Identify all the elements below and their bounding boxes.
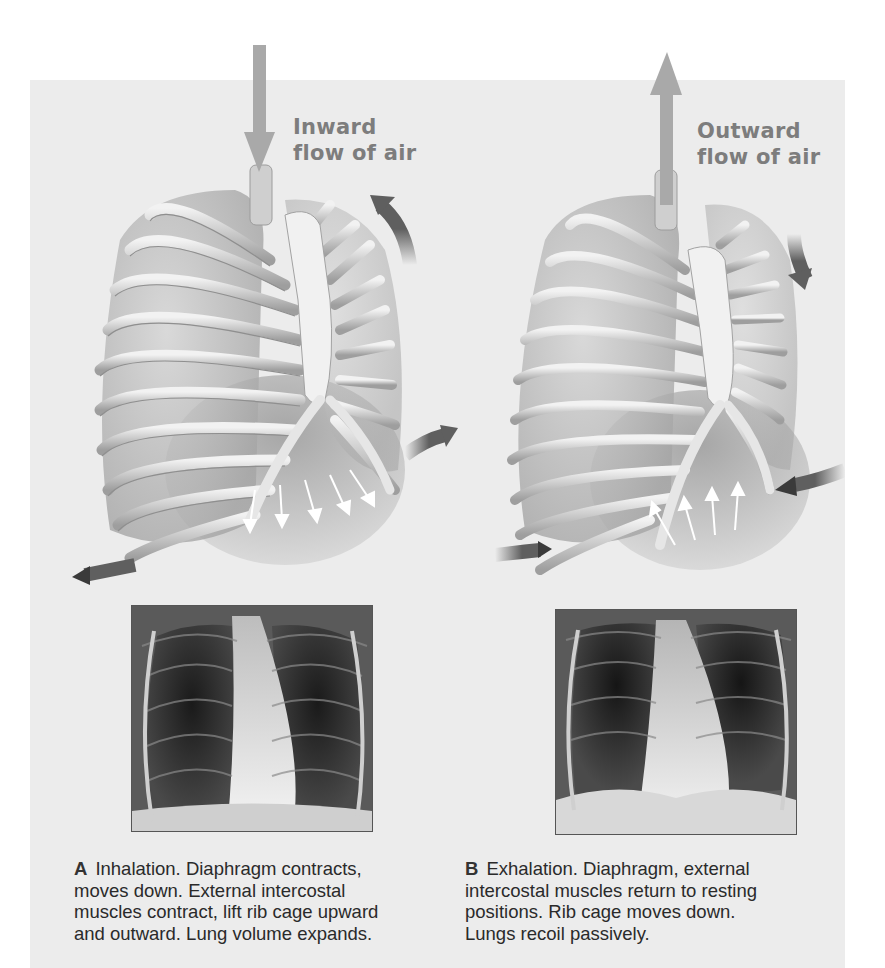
xray-inhalation-image xyxy=(132,606,372,831)
inward-air-arrow-shaft xyxy=(253,45,266,135)
caption-a-letter: A xyxy=(74,858,87,879)
caption-a-text-1: Inhalation. Diaphragm contracts, xyxy=(95,858,361,879)
xray-inhalation xyxy=(131,605,373,832)
caption-exhalation: BExhalation. Diaphragm, external interco… xyxy=(465,858,805,944)
inward-flow-label-line2: flow of air xyxy=(293,140,416,166)
caption-b-letter: B xyxy=(465,858,478,879)
caption-b-line-2: intercostal muscles return to resting xyxy=(465,880,805,902)
lower-rib-arrow-in xyxy=(495,550,540,555)
caption-b-text-1: Exhalation. Diaphragm, external xyxy=(486,858,749,879)
caption-a-line-2: moves down. External intercostal xyxy=(74,880,414,902)
outward-flow-label-line2: flow of air xyxy=(697,144,820,170)
outward-air-arrow-shaft xyxy=(660,90,673,205)
side-motion-arrow-out xyxy=(405,435,445,455)
inward-air-arrowhead xyxy=(244,132,275,172)
lower-rib-arrow-out xyxy=(85,565,135,575)
outward-air-arrowhead xyxy=(650,52,682,95)
inward-flow-label: Inward flow of air xyxy=(293,114,416,166)
caption-a-line-1: AInhalation. Diaphragm contracts, xyxy=(74,858,414,880)
lower-rib-arrowhead-out xyxy=(72,566,90,585)
xray-exhalation xyxy=(555,609,797,835)
caption-b-line-4: Lungs recoil passively. xyxy=(465,923,805,945)
outward-flow-label-line1: Outward xyxy=(697,118,820,144)
caption-a-line-3: muscles contract, lift rib cage upward xyxy=(74,901,414,923)
caption-b-line-1: BExhalation. Diaphragm, external xyxy=(465,858,805,880)
lower-rib-arrowhead-in xyxy=(538,541,552,558)
caption-inhalation: AInhalation. Diaphragm contracts, moves … xyxy=(74,858,414,944)
caption-a-line-4: and outward. Lung volume expands. xyxy=(74,923,414,945)
trachea xyxy=(250,165,272,225)
inward-flow-label-line1: Inward xyxy=(293,114,416,140)
outward-flow-label: Outward flow of air xyxy=(697,118,820,170)
caption-b-line-3: positions. Rib cage moves down. xyxy=(465,901,805,923)
xray-exhalation-image xyxy=(556,610,796,834)
